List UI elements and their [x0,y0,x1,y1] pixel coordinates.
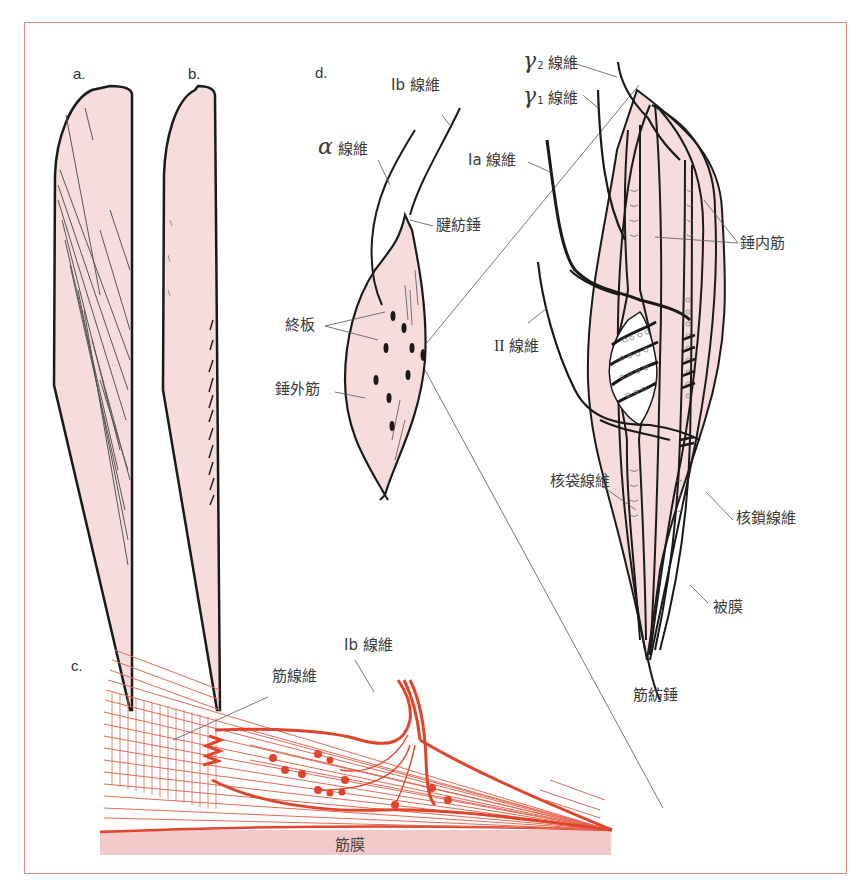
label-muscle-spindle: 筋紡錘 [633,688,678,703]
anatomy-illustration [0,0,866,890]
label-ib-fiber-c: Ib 線維 [344,638,393,653]
gamma1-subscript: 1 [537,95,543,106]
alpha-symbol: α [318,134,333,159]
alpha-fiber-text: 線維 [338,140,368,158]
gamma2-subscript: 2 [537,60,543,71]
label-intrafusal-muscle: 錘内筋 [740,236,785,251]
panel-a-muscle-drawing [54,86,132,710]
panel-a-letter: a. [73,65,86,82]
ii-roman: II [494,337,505,354]
panel-b-letter: b. [188,65,201,82]
label-nuclear-bag-fiber: 核袋線維 [550,474,610,489]
panel-d-muscle-spindle-drawing [528,62,738,700]
label-nuclear-chain-fiber: 核鎖線維 [736,511,796,526]
gamma1-symbol: γ [523,83,536,108]
label-end-plate: 終板 [285,318,315,333]
panel-c-letter: c. [71,657,83,674]
label-ii-fiber: II 線維 [494,338,539,354]
label-ia-fiber: Ia 線維 [468,153,516,168]
panel-d-letter: d. [315,64,328,81]
label-gamma2-fiber: γ2 線維 [523,50,578,72]
label-muscle-fiber: 筋線維 [272,669,317,684]
panel-c-tendon-organ-drawing [100,650,612,855]
gamma2-fiber-text: 線維 [548,54,578,72]
label-capsule: 被膜 [713,600,743,615]
gamma2-symbol: γ [523,48,536,73]
gamma1-fiber-text: 線維 [548,89,578,107]
label-ib-fiber-d: Ib 線維 [391,78,440,93]
ii-fiber-text: 線維 [509,337,539,355]
panel-b-muscle-drawing [163,86,220,710]
label-tendon-spindle: 腱紡錘 [436,218,481,233]
label-extrafusal-muscle: 錘外筋 [275,382,320,397]
label-gamma1-fiber: γ1 線維 [523,85,578,107]
label-alpha-fiber: α 線維 [318,136,368,158]
label-fascia: 筋膜 [335,833,365,854]
